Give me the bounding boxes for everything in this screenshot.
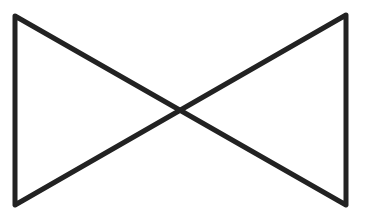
bowtie-diagram [0, 0, 366, 220]
bowtie-outline [15, 15, 346, 205]
